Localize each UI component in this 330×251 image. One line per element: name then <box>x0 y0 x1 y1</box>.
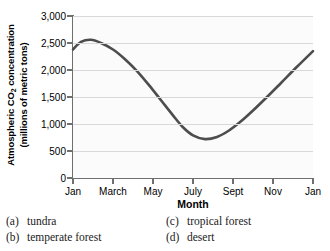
gridline <box>73 16 313 17</box>
x-axis-tick-mark <box>312 179 313 184</box>
gridline <box>73 70 313 71</box>
y-axis-title-subscript: 2 <box>10 88 17 92</box>
option-d[interactable]: (d)desert <box>166 231 214 243</box>
gridline <box>73 97 313 98</box>
plot-area <box>73 16 313 178</box>
x-axis-tick-label: March <box>99 186 127 197</box>
y-axis-tick-label: 0 <box>60 173 66 184</box>
x-axis-tick-mark <box>272 179 273 184</box>
x-axis-tick-mark <box>152 179 153 184</box>
y-axis-tick-label: 3,000 <box>41 11 66 22</box>
y-axis-tick-mark <box>67 42 73 43</box>
x-axis-title: Month <box>73 198 313 210</box>
y-axis-tick-labels: 05001,0001,5002,0002,5003,000 <box>28 0 70 212</box>
x-axis-tick-mark <box>72 179 73 184</box>
y-axis-title-text-rest: concentration <box>5 24 16 88</box>
y-axis-tick-label: 1,500 <box>41 92 66 103</box>
figure: Atmospheric CO2 concentration (millions … <box>0 0 330 251</box>
x-axis-tick-label: Sept <box>223 186 244 197</box>
gridline <box>73 151 313 152</box>
y-axis-tick-mark <box>67 69 73 70</box>
x-axis-tick-label: May <box>144 186 163 197</box>
option-d-label: (d) <box>166 231 187 243</box>
option-c[interactable]: (c)tropical forest <box>166 215 251 227</box>
y-axis-tick-label: 1,000 <box>41 119 66 130</box>
y-axis-title-text: Atmospheric CO <box>5 92 16 166</box>
y-axis-tick-label: 2,000 <box>41 65 66 76</box>
x-axis-tick-mark <box>192 179 193 184</box>
y-axis-tick-mark <box>67 96 73 97</box>
gridline <box>73 43 313 44</box>
y-axis-tick-label: 2,500 <box>41 38 66 49</box>
x-axis-tick-mark <box>112 179 113 184</box>
option-c-text: tropical forest <box>187 215 251 227</box>
option-b-label: (b) <box>6 231 27 243</box>
x-axis-tick-label: Nov <box>264 186 282 197</box>
x-axis-tick-mark <box>232 179 233 184</box>
option-c-label: (c) <box>166 215 187 227</box>
y-axis-tick-mark <box>67 150 73 151</box>
option-d-text: desert <box>187 231 214 243</box>
chart: Atmospheric CO2 concentration (millions … <box>0 0 330 212</box>
y-axis-tick-label: 500 <box>49 146 66 157</box>
option-a-label: (a) <box>6 215 27 227</box>
y-axis-tick-mark <box>67 15 73 16</box>
x-axis-tick-label: Jan <box>305 186 321 197</box>
option-b-text: temperate forest <box>27 231 101 243</box>
y-axis-tick-mark <box>67 123 73 124</box>
x-axis-tick-label: Jan <box>65 186 81 197</box>
option-b[interactable]: (b)temperate forest <box>6 231 101 243</box>
y-axis-title-line-1: Atmospheric CO2 concentration <box>5 5 18 185</box>
answer-options: (a)tundra (b)temperate forest (c)tropica… <box>0 214 330 251</box>
option-a-text: tundra <box>27 215 56 227</box>
x-axis-tick-label: July <box>184 186 202 197</box>
option-a[interactable]: (a)tundra <box>6 215 56 227</box>
gridline <box>73 124 313 125</box>
